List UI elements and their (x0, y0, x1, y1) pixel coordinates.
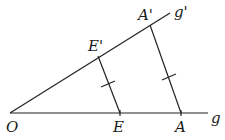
label-g-prime: g' (174, 3, 188, 21)
segment-e-e-prime (98, 56, 120, 113)
ray-g-prime (10, 13, 170, 113)
label-g: g (211, 109, 221, 127)
label-e-prime: E' (87, 37, 103, 55)
label-a: A (173, 118, 186, 136)
label-e: E (112, 118, 124, 136)
intercept-theorem-diagram: O E A g E' A' g' (0, 0, 225, 140)
segment-a-a-prime (150, 25, 181, 113)
label-origin: O (6, 118, 18, 136)
label-a-prime: A' (136, 6, 153, 24)
